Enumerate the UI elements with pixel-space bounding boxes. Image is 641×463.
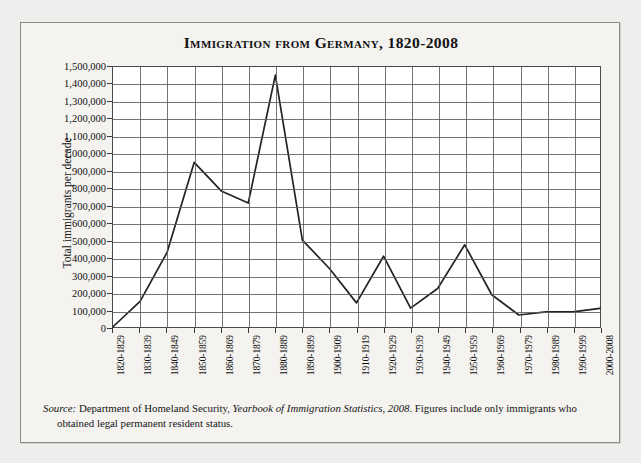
gridline-vertical xyxy=(385,67,386,327)
x-axis-tick-label: 1840-1849 xyxy=(170,335,180,397)
gridline-vertical xyxy=(412,67,413,327)
source-note: Source: Department of Homeland Security,… xyxy=(43,401,599,432)
gridline-vertical xyxy=(195,67,196,327)
gridline-vertical xyxy=(548,67,549,327)
x-axis-tick-mark xyxy=(411,328,412,333)
gridline-horizontal xyxy=(113,259,600,260)
x-axis-tick-mark xyxy=(601,328,602,333)
x-axis-tick-label: 1900-1909 xyxy=(333,335,343,397)
y-axis-tick-marks xyxy=(21,66,112,328)
x-axis-tick-label: 1830-1839 xyxy=(143,335,153,397)
series-line-immigration xyxy=(113,75,600,327)
source-label: Source: xyxy=(43,402,76,414)
gridline-horizontal xyxy=(113,242,600,243)
gridline-vertical xyxy=(521,67,522,327)
gridline-horizontal xyxy=(113,294,600,295)
x-axis-tick-mark xyxy=(329,328,330,333)
x-axis-tick-mark xyxy=(492,328,493,333)
x-axis-tick-label: 1960-1969 xyxy=(496,335,506,397)
x-axis-tick-label: 1990-1999 xyxy=(578,335,588,397)
gridline-horizontal xyxy=(113,312,600,313)
gridline-horizontal xyxy=(113,119,600,120)
gridline-horizontal xyxy=(113,189,600,190)
gridline-vertical xyxy=(439,67,440,327)
gridline-horizontal xyxy=(113,102,600,103)
x-axis-tick-label: 1970-1979 xyxy=(524,335,534,397)
x-axis-tick-mark xyxy=(465,328,466,333)
x-axis-tick-mark xyxy=(139,328,140,333)
gridline-vertical xyxy=(330,67,331,327)
gridline-vertical xyxy=(276,67,277,327)
page-title: Immigration from Germany, 1820-2008 xyxy=(21,34,621,52)
x-axis-tick-mark xyxy=(302,328,303,333)
gridline-horizontal xyxy=(113,154,600,155)
x-axis-tick-label: 1870-1879 xyxy=(252,335,262,397)
gridline-vertical xyxy=(493,67,494,327)
gridline-vertical xyxy=(358,67,359,327)
x-axis-tick-label: 1820-1829 xyxy=(116,335,126,397)
x-axis-tick-mark xyxy=(166,328,167,333)
x-axis-tick-mark xyxy=(194,328,195,333)
gridline-vertical xyxy=(466,67,467,327)
x-axis-tick-label: 1890-1899 xyxy=(306,335,316,397)
source-text-1: Department of Homeland Security, xyxy=(76,402,232,414)
x-axis-tick-label: 1920-1929 xyxy=(388,335,398,397)
x-axis-tick-mark xyxy=(357,328,358,333)
x-axis-tick-mark xyxy=(547,328,548,333)
x-axis-tick-labels: 1820-18291830-18391840-18491850-18591860… xyxy=(112,335,601,397)
gridline-horizontal xyxy=(113,172,600,173)
x-axis-tick-label: 1880-1889 xyxy=(279,335,289,397)
x-axis-tick-mark xyxy=(574,328,575,333)
gridline-horizontal xyxy=(113,224,600,225)
x-axis-tick-label: 1940-1949 xyxy=(442,335,452,397)
gridline-horizontal xyxy=(113,137,600,138)
gridline-horizontal xyxy=(113,207,600,208)
gridline-vertical xyxy=(222,67,223,327)
x-axis-tick-label: 1860-1869 xyxy=(225,335,235,397)
gridline-vertical xyxy=(249,67,250,327)
x-axis-tick-label: 1980-1989 xyxy=(551,335,561,397)
x-axis-tick-mark xyxy=(384,328,385,333)
gridline-vertical xyxy=(167,67,168,327)
gridline-horizontal xyxy=(113,277,600,278)
gridline-vertical xyxy=(303,67,304,327)
gridline-horizontal xyxy=(113,84,600,85)
x-axis-tick-marks xyxy=(112,328,601,334)
x-axis-tick-label: 1950-1959 xyxy=(469,335,479,397)
data-series-line xyxy=(113,67,600,328)
x-axis-tick-label: 1850-1859 xyxy=(198,335,208,397)
source-publication: Yearbook of Immigration Statistics, 2008 xyxy=(233,402,410,414)
x-axis-tick-mark xyxy=(112,328,113,333)
plot-wrap xyxy=(112,66,601,328)
x-axis-tick-mark xyxy=(275,328,276,333)
x-axis-tick-label: 2000-2008 xyxy=(605,335,615,397)
x-axis-tick-label: 1910-1919 xyxy=(361,335,371,397)
plot-area xyxy=(112,66,601,328)
x-axis-tick-label: 1930-1939 xyxy=(415,335,425,397)
x-axis-tick-mark xyxy=(438,328,439,333)
chart-figure: Immigration from Germany, 1820-2008 Tota… xyxy=(20,22,620,443)
gridline-vertical xyxy=(140,67,141,327)
x-axis-tick-mark xyxy=(520,328,521,333)
x-axis-tick-mark xyxy=(221,328,222,333)
gridline-vertical xyxy=(575,67,576,327)
x-axis-tick-mark xyxy=(248,328,249,333)
